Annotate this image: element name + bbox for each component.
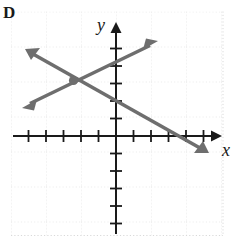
graph-canvas — [0, 0, 242, 246]
coordinate-plane-figure: D — [0, 0, 242, 246]
intersection-point — [69, 76, 78, 85]
problem-choice-label: D — [3, 3, 15, 22]
axis-label-y: y — [97, 15, 105, 35]
axis-label-x: x — [222, 140, 230, 160]
